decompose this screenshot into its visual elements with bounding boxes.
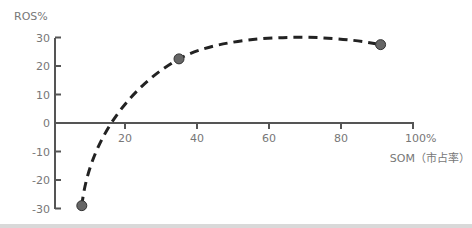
x-axis-title: SOM（市占率）	[390, 151, 470, 165]
x-tick-label: 40	[190, 132, 204, 145]
data-point-marker	[376, 40, 386, 50]
x-tick-label: 100%	[405, 132, 436, 145]
bottom-divider	[0, 224, 472, 228]
y-tick-label: 0	[43, 117, 50, 130]
x-tick-label: 60	[262, 132, 276, 145]
data-markers	[77, 40, 386, 211]
y-tick-label: -10	[32, 146, 50, 159]
y-tick-label: 20	[36, 60, 50, 73]
data-point-marker	[77, 201, 87, 211]
y-tick-label: 10	[36, 89, 50, 102]
y-tick-label: -20	[32, 174, 50, 187]
y-tick-label: 30	[36, 32, 50, 45]
y-tick-label: -30	[32, 203, 50, 216]
x-ticks: 20406080100%	[118, 123, 436, 145]
x-tick-label: 80	[334, 132, 348, 145]
data-point-marker	[174, 54, 184, 64]
chart: ROS% 3020100-10-20-30 20406080100% SOM（市…	[0, 0, 472, 228]
ros-curve	[82, 37, 381, 205]
y-axis-title: ROS%	[14, 10, 48, 23]
x-tick-label: 20	[118, 132, 132, 145]
